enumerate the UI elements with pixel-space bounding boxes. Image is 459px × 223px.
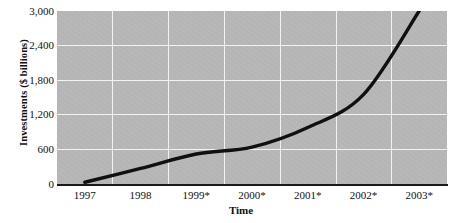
y-tick-3000: 3,000 (14, 6, 54, 17)
x-tick-2001: 2001* (280, 188, 336, 202)
x-axis-title: Time (57, 204, 425, 216)
y-axis-tick-labels: 3,000 2,400 1,800 1,200 600 0 (10, 0, 54, 223)
x-tick-1997: 1997 (57, 188, 113, 202)
y-tick-1200: 1,200 (14, 109, 54, 120)
y-tick-600: 600 (14, 144, 54, 155)
x-tick-1999: 1999* (168, 188, 224, 202)
x-tick-2000: 2000* (224, 188, 280, 202)
y-tick-2400: 2,400 (14, 40, 54, 51)
x-axis-line (57, 184, 448, 186)
x-tick-2002: 2002* (336, 188, 392, 202)
investments-line-chart: Investments ($ billions) 3,000 2,400 1,8… (0, 0, 459, 223)
plot-area (57, 11, 447, 184)
investments-curve (57, 11, 447, 184)
x-tick-1998: 1998 (113, 188, 169, 202)
x-axis-tick-labels: 1997 1998 1999* 2000* 2001* 2002* 2003* (57, 188, 447, 202)
series-line-investments (85, 11, 419, 182)
y-tick-1800: 1,800 (14, 75, 54, 86)
x-tick-2003: 2003* (391, 188, 447, 202)
y-tick-0: 0 (14, 179, 54, 190)
